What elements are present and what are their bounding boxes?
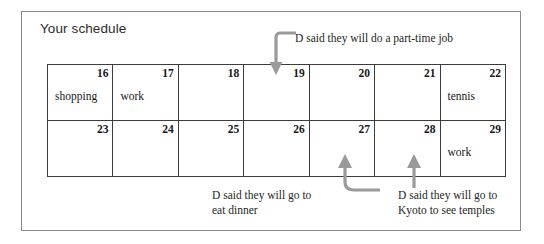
day-event: work — [448, 145, 472, 159]
dinner-annotation-arrow — [336, 152, 382, 198]
day-number: 27 — [359, 122, 371, 136]
part-time-annotation-text: D said they will do a part-time job — [295, 31, 453, 46]
day-cell-29[interactable]: 29 work — [440, 121, 505, 177]
day-number: 16 — [97, 66, 109, 80]
schedule-table: 16 shopping 17 work 18 19 20 21 — [47, 64, 506, 177]
day-number: 24 — [162, 122, 174, 136]
day-cell-17[interactable]: 17 work — [113, 65, 178, 121]
day-cell-26[interactable]: 26 — [244, 121, 309, 177]
kyoto-annotation-arrow — [405, 152, 425, 192]
day-cell-22[interactable]: 22 tennis — [440, 65, 505, 121]
kyoto-annotation-line2: Kyoto to see temples — [398, 204, 495, 216]
day-cell-18[interactable]: 18 — [178, 65, 243, 121]
day-event: tennis — [448, 89, 475, 103]
dinner-annotation-line2: eat dinner — [212, 204, 258, 216]
day-cell-25[interactable]: 25 — [178, 121, 243, 177]
day-number: 29 — [489, 122, 501, 136]
day-number: 21 — [424, 66, 436, 80]
page-title: Your schedule — [40, 21, 126, 36]
day-event: shopping — [55, 89, 97, 103]
day-cell-16[interactable]: 16 shopping — [48, 65, 113, 121]
day-event: work — [120, 89, 144, 103]
dinner-annotation-line1: D said they will go to — [212, 189, 311, 201]
day-cell-24[interactable]: 24 — [113, 121, 178, 177]
day-number: 28 — [424, 122, 436, 136]
day-number: 18 — [228, 66, 240, 80]
day-cell-20[interactable]: 20 — [309, 65, 374, 121]
kyoto-annotation-line1: D said they will go to — [398, 189, 497, 201]
dinner-annotation-text: D said they will go toeat dinner — [212, 188, 311, 217]
day-cell-23[interactable]: 23 — [48, 121, 113, 177]
day-number: 25 — [228, 122, 240, 136]
day-number: 23 — [97, 122, 109, 136]
day-number: 20 — [359, 66, 371, 80]
day-cell-21[interactable]: 21 — [375, 65, 440, 121]
table-row: 23 24 25 26 27 28 — [48, 121, 506, 177]
kyoto-annotation-text: D said they will go toKyoto to see templ… — [398, 188, 497, 217]
day-number: 22 — [489, 66, 501, 80]
day-number: 26 — [293, 122, 305, 136]
day-number: 17 — [162, 66, 174, 80]
